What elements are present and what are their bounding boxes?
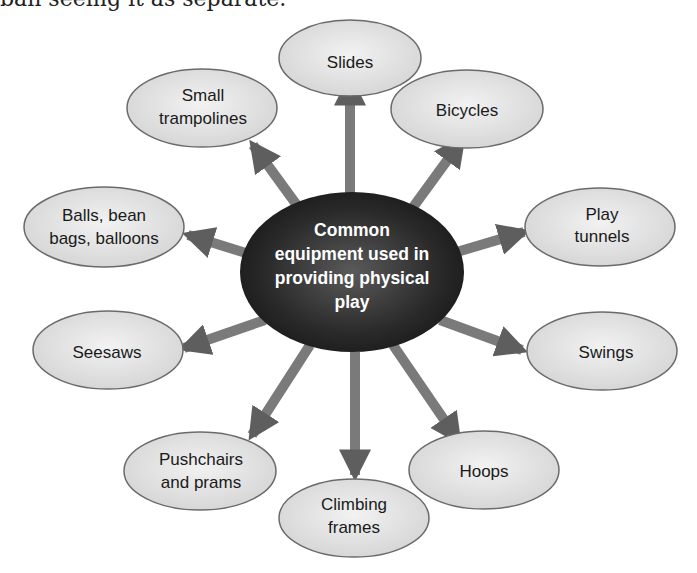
arrow-to-hoops [393, 345, 458, 440]
svg-text:Small: Small [182, 86, 225, 105]
node-pushchairs-and-prams: Pushchairs and prams [124, 432, 276, 510]
center-label-line-2: equipment used in [275, 244, 430, 264]
arrow-to-pushchairs [252, 345, 310, 435]
svg-text:frames: frames [328, 518, 380, 537]
svg-text:trampolines: trampolines [159, 109, 247, 128]
center-label-line-3: providing physical [275, 268, 430, 288]
node-slides: Slides [279, 20, 421, 96]
svg-text:and prams: and prams [161, 473, 241, 492]
svg-text:tunnels: tunnels [575, 227, 630, 246]
center-label-line-1: Common [314, 220, 390, 240]
center-label-line-4: play [334, 292, 369, 312]
svg-text:Bicycles: Bicycles [436, 101, 498, 120]
svg-text:Balls, bean: Balls, bean [62, 206, 146, 225]
center-node: Common equipment used in providing physi… [240, 192, 464, 352]
node-bicycles: Bicycles [391, 70, 543, 148]
svg-text:bags, balloons: bags, balloons [49, 229, 159, 248]
svg-text:Slides: Slides [327, 53, 373, 72]
node-balls-bean-bags-balloons: Balls, bean bags, balloons [24, 187, 184, 267]
arrow-to-swings [440, 320, 522, 350]
node-play-tunnels: Play tunnels [525, 188, 675, 266]
svg-text:Pushchairs: Pushchairs [159, 450, 243, 469]
node-seesaws: Seesaws [33, 311, 183, 389]
node-small-trampolines: Small trampolines [127, 69, 277, 147]
svg-text:Hoops: Hoops [459, 462, 508, 481]
node-climbing-frames: Climbing frames [279, 479, 429, 557]
node-swings: Swings [527, 312, 677, 390]
svg-text:Seesaws: Seesaws [73, 343, 142, 362]
arrow-to-seesaws [184, 320, 265, 348]
svg-text:Swings: Swings [579, 343, 634, 362]
node-hoops: Hoops [409, 431, 559, 509]
svg-text:Climbing: Climbing [321, 495, 387, 514]
svg-text:Play: Play [585, 205, 619, 224]
mind-map-diagram: Common equipment used in providing physi… [0, 0, 697, 573]
